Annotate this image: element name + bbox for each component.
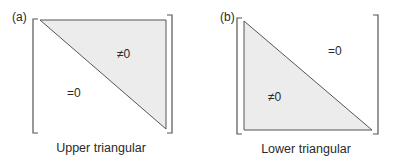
panel-label-a: (a) [12,10,27,24]
triangular-matrix-figure: (a) ≠0 =0 Upper triangular (b) =0 ≠0 Low… [0,0,393,166]
panel-upper-triangular: (a) ≠0 =0 Upper triangular [12,10,172,155]
right-bracket-icon [167,15,172,133]
caption-a: Upper triangular [56,141,146,155]
left-bracket-icon [237,18,242,134]
panel-lower-triangular: (b) =0 ≠0 Lower triangular [220,10,378,156]
nonzero-region-upper [40,20,166,129]
left-bracket-icon [33,19,38,133]
zero-label-b: =0 [328,44,342,58]
nonzero-label-b: ≠0 [268,90,282,104]
caption-b: Lower triangular [261,142,351,156]
nonzero-region-lower [244,21,372,130]
nonzero-label-a: ≠0 [117,47,131,61]
right-bracket-icon [373,15,378,134]
panel-label-b: (b) [220,10,235,24]
zero-label-a: =0 [67,86,81,100]
